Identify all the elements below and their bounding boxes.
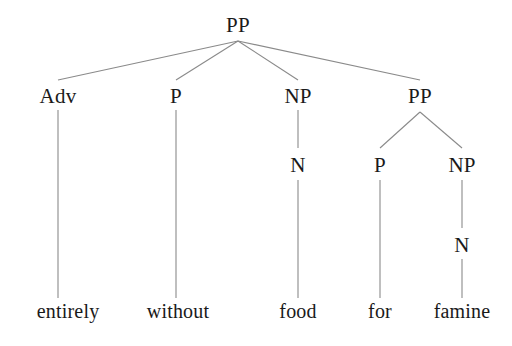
tree-edge — [176, 41, 238, 80]
tree-node-p1: P — [170, 86, 182, 107]
tree-node-p2: P — [374, 155, 386, 176]
tree-leaf-food: food — [279, 301, 316, 321]
tree-edge — [58, 41, 238, 80]
tree-leaf-famine: famine — [434, 301, 491, 321]
tree-node-n1: N — [290, 155, 305, 176]
tree-node-pp2: PP — [408, 86, 432, 107]
tree-node-np1: NP — [284, 86, 311, 107]
tree-leaf-entirely: entirely — [37, 301, 100, 321]
tree-node-np2: NP — [448, 155, 475, 176]
syntax-tree-diagram: PPAdvPNPPPNPNPNentirelywithoutfoodforfam… — [0, 0, 512, 346]
tree-node-pp-root: PP — [226, 15, 250, 36]
tree-edge — [380, 112, 420, 148]
tree-leaf-without: without — [147, 301, 210, 321]
tree-edge — [238, 41, 298, 80]
tree-node-adv: Adv — [40, 86, 77, 107]
tree-node-n2: N — [454, 235, 469, 256]
tree-leaf-for: for — [368, 301, 392, 321]
tree-edge — [420, 112, 462, 148]
tree-edges-layer — [0, 0, 512, 346]
tree-edge — [238, 41, 420, 80]
